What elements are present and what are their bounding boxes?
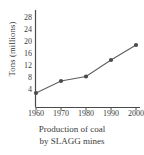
y-tick-label: 20 [16,38,32,46]
y-tick-label: 28 [16,14,32,22]
chart-caption: Production of coal by SLAGG mines [0,124,144,147]
data-point [34,91,38,95]
caption-line-1: Production of coal [0,124,144,136]
y-tick-label: 16 [16,50,32,58]
x-tick-label: 1990 [99,110,123,118]
x-axis-tick-labels: 1960 1970 1980 1990 2000 [0,110,144,122]
x-tick-label: 2000 [124,110,144,118]
y-tick-label: 12 [16,62,32,70]
data-point-markers [34,43,138,95]
data-point [109,58,113,62]
plot-area: Tons (millions) 28 24 20 16 12 8 4 [0,0,144,122]
chart-figure: Tons (millions) 28 24 20 16 12 8 4 [0,0,144,155]
x-tick-label: 1970 [49,110,73,118]
data-series-line [36,45,136,93]
y-tick-label: 8 [16,74,32,82]
y-axis-tick-labels: 28 24 20 16 12 8 4 [14,0,32,122]
x-tick-label: 1980 [74,110,98,118]
y-tick-label: 4 [16,86,32,94]
x-tick-label: 1960 [24,110,48,118]
data-point [134,43,138,47]
data-point [59,79,63,83]
caption-line-2: by SLAGG mines [0,136,144,148]
y-tick-label: 24 [16,26,32,34]
data-point [84,74,88,78]
